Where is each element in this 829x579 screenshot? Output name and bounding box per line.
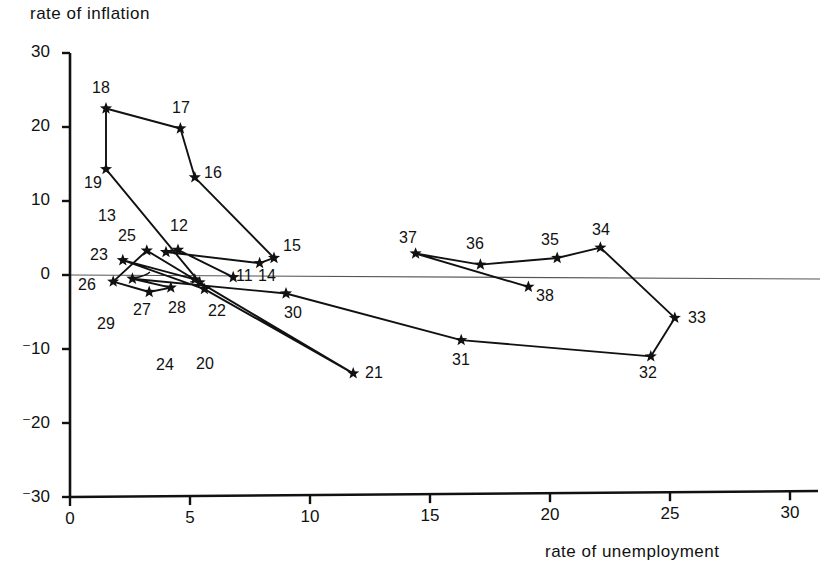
point-label-36: 36 <box>466 236 484 252</box>
point-label-19: 19 <box>84 175 102 191</box>
point-label-15: 15 <box>283 238 301 254</box>
point-label-22: 22 <box>208 303 226 319</box>
axis-ticks <box>62 53 790 506</box>
data-point-36 <box>474 258 486 270</box>
data-point-37 <box>410 247 422 259</box>
point-label-33: 33 <box>688 310 706 326</box>
data-point-38 <box>522 280 534 292</box>
point-label-26: 26 <box>78 277 96 293</box>
x-tick-label-10: 10 <box>290 507 330 527</box>
point-label-28: 28 <box>168 300 186 316</box>
y-tick-label-neg30: ⁻30 <box>6 486 50 507</box>
data-point-27 <box>143 286 155 298</box>
point-label-35: 35 <box>541 232 559 248</box>
trajectory-polyline <box>106 109 675 374</box>
data-point-markers <box>100 102 681 379</box>
y-tick-label-10: 10 <box>6 190 50 210</box>
point-label-13: 13 <box>98 208 116 224</box>
x-tick-label-25: 25 <box>650 504 690 524</box>
point-label-12: 12 <box>170 218 188 234</box>
x-tick-label-5: 5 <box>170 508 210 528</box>
point-label-16: 16 <box>204 165 222 181</box>
x-tick-label-30: 30 <box>770 503 810 523</box>
point-label-38: 38 <box>536 288 554 304</box>
point-label-30: 30 <box>284 305 302 321</box>
inflation-unemployment-scatter-figure: rate of inflation rate of unemployment 3… <box>0 0 829 579</box>
data-point-17 <box>174 122 186 134</box>
data-point-19 <box>100 163 112 175</box>
x-tick-label-20: 20 <box>530 505 570 525</box>
point-label-18: 18 <box>92 80 110 96</box>
data-point-35 <box>551 252 563 264</box>
point-label-32: 32 <box>639 365 657 381</box>
point-label-31: 31 <box>452 352 470 368</box>
x-tick-label-0: 0 <box>50 509 90 529</box>
point-label-11: 11 <box>236 268 253 284</box>
point-label-20: 20 <box>196 356 214 372</box>
point-label-34: 34 <box>592 222 610 238</box>
point-label-21: 21 <box>365 365 383 381</box>
point-label-27: 27 <box>133 302 151 318</box>
data-point-31 <box>455 334 467 346</box>
y-tick-label-neg20: ⁻20 <box>6 412 50 433</box>
data-point-29 <box>126 272 138 284</box>
point-label-24: 24 <box>156 357 174 373</box>
point-label-25: 25 <box>118 228 136 244</box>
point-label-37: 37 <box>399 230 417 246</box>
data-point-21 <box>347 367 359 379</box>
point-label-17: 17 <box>172 100 190 116</box>
point-label-23: 23 <box>90 247 108 263</box>
y-tick-label-20: 20 <box>6 116 50 136</box>
data-point-30 <box>280 287 292 299</box>
y-tick-label-neg10: ⁻10 <box>6 338 50 359</box>
point-label-29: 29 <box>97 316 115 332</box>
axis-lines <box>70 53 818 497</box>
y-tick-label-30: 30 <box>6 42 50 62</box>
x-tick-label-15: 15 <box>410 506 450 526</box>
data-point-23 <box>117 254 129 266</box>
data-point-32 <box>645 350 657 362</box>
plot-area <box>0 0 829 579</box>
point-label-14: 14 <box>258 268 276 284</box>
y-tick-label-0: 0 <box>6 264 50 284</box>
